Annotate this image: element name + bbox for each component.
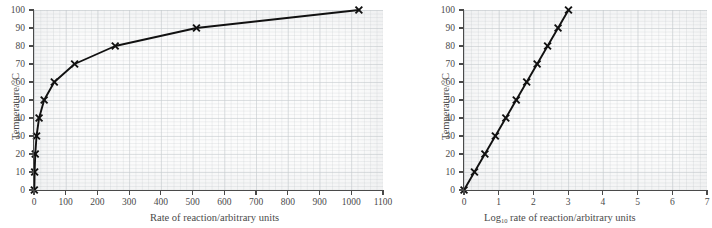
chart-right-log-rate-vs-temperature: 010203040506070809010001234567 Temperatu… [418,0,712,228]
y-tick-label: 0 [433,186,455,196]
x-tick [97,191,98,195]
x-tick-label: 700 [241,198,271,208]
y-tick-label: 90 [433,24,455,34]
data-point-marker [481,151,488,158]
y-tick [459,135,463,136]
x-tick-label: 100 [51,198,81,208]
y-tick-label: 70 [3,60,25,70]
x-tick-label: 6 [657,198,687,208]
y-tick-label: 70 [433,60,455,70]
x-tick [637,191,638,195]
x-tick-label: 0 [449,198,479,208]
y-tick [459,27,463,28]
x-tick-label: 500 [178,198,208,208]
data-point-marker [534,61,541,68]
y-tick-label: 100 [3,6,25,16]
y-tick-label: 80 [3,42,25,52]
x-tick [224,191,225,195]
y-tick-label: 100 [433,6,455,16]
x-tick [129,191,130,195]
x-tick [255,191,256,195]
x-tick [533,191,534,195]
y-axis-title-left: Temperature/°C [11,73,22,140]
y-tick [459,171,463,172]
x-tick [463,191,464,195]
data-point-marker [544,43,551,50]
x-axis-title-right-base: Log [484,212,501,223]
x-tick-label: 900 [305,198,335,208]
x-tick-label: 600 [209,198,239,208]
y-axis-title-right: Temperature/°C [441,73,452,140]
x-axis-title-left: Rate of reaction/arbitrary units [150,213,279,224]
x-axis-title-right-rest: rate of reaction/arbitrary units [507,212,635,223]
x-tick [319,191,320,195]
y-tick [459,63,463,64]
y-tick [29,63,33,64]
y-tick [29,117,33,118]
y-tick-label: 10 [433,168,455,178]
y-tick [459,45,463,46]
x-axis-title-right: Log10 rate of reaction/arbitrary units [484,213,636,224]
y-tick [459,81,463,82]
x-tick [568,191,569,195]
x-tick-label: 3 [553,198,583,208]
y-tick [459,153,463,154]
y-tick [29,81,33,82]
x-tick-label: 800 [273,198,303,208]
data-point-marker [502,115,509,122]
x-tick [287,191,288,195]
y-tick [29,189,33,190]
y-tick-label: 10 [3,168,25,178]
x-tick [160,191,161,195]
x-tick-label: 1000 [336,198,366,208]
y-tick [459,99,463,100]
y-tick [459,189,463,190]
x-tick [602,191,603,195]
x-tick-label: 1 [484,198,514,208]
y-tick-label: 20 [3,150,25,160]
y-tick [29,153,33,154]
y-tick-label: 0 [3,186,25,196]
x-tick [351,191,352,195]
x-tick [672,191,673,195]
y-tick-label: 80 [433,42,455,52]
y-tick [29,45,33,46]
y-tick-label: 90 [3,24,25,34]
figure-canvas: 0102030405060708090100010020030040050060… [0,0,712,228]
y-axis-line-left [33,9,34,191]
x-tick [65,191,66,195]
series-line-right [464,10,707,190]
chart-left-rate-vs-temperature: 0102030405060708090100010020030040050060… [0,0,418,228]
y-tick [459,117,463,118]
data-point-marker [471,169,478,176]
plot-area-left [34,10,383,190]
data-point-marker [492,133,499,140]
x-tick-label: 5 [623,198,653,208]
data-point-marker [565,7,572,14]
x-axis-title-right-subscript: 10 [501,217,508,224]
y-tick [29,9,33,10]
x-tick-label: 7 [692,198,712,208]
y-tick [459,9,463,10]
data-point-marker [51,79,58,86]
y-axis-line-right [463,9,464,191]
x-tick [33,191,34,195]
x-tick-label: 1100 [368,198,398,208]
y-tick [29,99,33,100]
y-tick [29,27,33,28]
x-tick-label: 2 [518,198,548,208]
x-tick [498,191,499,195]
y-tick [29,135,33,136]
y-tick-label: 20 [433,150,455,160]
data-point-marker [523,79,530,86]
plot-area-right [464,10,707,190]
x-tick-label: 0 [19,198,49,208]
y-tick [29,171,33,172]
x-tick-label: 400 [146,198,176,208]
data-point-marker [555,25,562,32]
data-point-marker [71,61,78,68]
x-axis-line-left [33,190,384,191]
x-tick-label: 300 [114,198,144,208]
data-point-marker [513,97,520,104]
x-tick [192,191,193,195]
